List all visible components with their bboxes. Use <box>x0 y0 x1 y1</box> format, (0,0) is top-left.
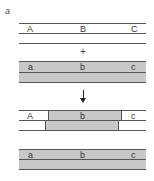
product-label-1: b <box>80 150 85 160</box>
strand-2-bottom-line <box>19 82 146 83</box>
heteroduplex-label-2: c <box>131 111 136 121</box>
strand-2-label-2: c <box>131 62 136 72</box>
heteroduplex-right-bottom-break <box>118 120 119 130</box>
heteroduplex-right-top-break <box>121 110 122 120</box>
heteroduplex-label-0: A <box>27 111 33 121</box>
strand-1-bottom-line <box>19 43 146 44</box>
product-label-2: c <box>131 150 136 160</box>
strand-1-label-1: B <box>80 24 86 34</box>
strand-1-label-2: C <box>131 24 138 34</box>
product-label-0: a <box>28 150 33 160</box>
product-bottom-line <box>19 169 146 170</box>
heteroduplex-bottom-line <box>19 130 146 131</box>
strand-2-label-0: a <box>28 62 33 72</box>
panel-label: a <box>5 6 10 16</box>
strand-2-label-1: b <box>80 62 85 72</box>
strand-2-mid-line <box>19 72 146 73</box>
plus-sign: + <box>80 47 86 57</box>
heteroduplex-bottom-shade <box>45 120 118 130</box>
heteroduplex-label-1: b <box>80 111 85 121</box>
heteroduplex-left-top-break <box>48 110 49 120</box>
strand-1-label-0: A <box>27 24 33 34</box>
heteroduplex-left-bottom-break <box>45 120 46 130</box>
